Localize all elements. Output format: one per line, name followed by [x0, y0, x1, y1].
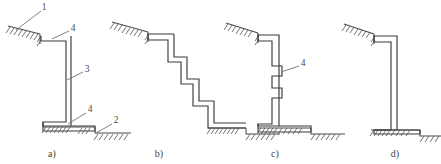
hatch-tick	[265, 128, 269, 134]
hatch-tick	[391, 130, 395, 136]
hatch-tick	[109, 134, 113, 140]
callout-4-notch: 4	[281, 58, 306, 72]
hatch-tick	[114, 134, 118, 140]
hatch-tick	[114, 24, 118, 30]
hatch-tick	[18, 30, 22, 36]
hatch-tick	[354, 29, 358, 35]
callout-label: 3	[85, 64, 90, 74]
panel-a-upper-ground	[6, 26, 41, 46]
hatch-tick	[378, 130, 382, 136]
panel-caption-d: d)	[391, 148, 399, 160]
panel-b-upper-ground	[110, 22, 149, 44]
hatch-tick	[283, 128, 287, 134]
wall-outline-front	[258, 41, 311, 132]
hatch-tick	[366, 32, 370, 38]
callout-label: 4	[88, 104, 93, 114]
hatch-tick	[240, 29, 244, 35]
leader-line	[16, 11, 41, 30]
hatch-tick	[94, 134, 98, 140]
hatch-tick	[58, 127, 62, 133]
ground-line	[95, 127, 131, 133]
hatch-tick	[30, 33, 34, 39]
hatch-tick	[396, 130, 400, 136]
panel-b: b)	[110, 22, 280, 160]
hatch-tick	[50, 127, 54, 133]
hatch-tick	[278, 128, 282, 134]
hatch-tick	[118, 25, 122, 31]
panel-d: d)	[342, 24, 441, 160]
hatch-tick	[62, 127, 66, 133]
callout-label: 4	[71, 23, 76, 33]
callout-label: 1	[42, 2, 47, 12]
hatch-tick	[99, 134, 103, 140]
wall-outline-back	[174, 34, 246, 123]
hatch-tick	[346, 26, 350, 32]
hatch-tick	[316, 134, 320, 140]
hatch-tick	[134, 30, 138, 36]
hatch-tick	[401, 130, 405, 136]
hatch-tick	[211, 128, 215, 134]
hatch-tick	[119, 134, 123, 140]
hatch-tick	[256, 134, 260, 140]
hatch-tick	[104, 134, 108, 140]
hatch-tick	[321, 134, 325, 140]
hatch-tick	[420, 136, 424, 142]
wall-top-edge	[148, 34, 174, 40]
panel-caption-c: c)	[271, 148, 279, 160]
hatch-tick	[271, 134, 275, 140]
hatch-tick	[66, 127, 70, 133]
hatch-tick	[350, 27, 354, 33]
hatch-tick	[425, 136, 429, 142]
hatch-tick	[227, 128, 231, 134]
panel-a-lower-ground	[42, 127, 131, 140]
hatch-tick	[130, 29, 134, 35]
hatch-tick	[311, 134, 315, 140]
hatch-tick	[122, 27, 126, 33]
hatch-tick	[22, 31, 26, 37]
hatch-tick	[34, 34, 38, 40]
hatch-tick	[251, 134, 255, 140]
retaining-wall-figure: 1 4 3 4 2 a)	[0, 0, 441, 164]
panel-caption-a: a)	[48, 148, 56, 160]
callout-label: 4	[301, 58, 306, 68]
hatch-tick	[326, 134, 330, 140]
ground-line	[420, 130, 441, 136]
hatch-tick	[331, 134, 335, 140]
hatch-tick	[342, 25, 346, 31]
hatch-tick	[54, 127, 58, 133]
callout-3: 3	[67, 64, 90, 80]
hatch-tick	[219, 128, 223, 134]
hatch-tick	[224, 24, 228, 30]
hatch-tick	[386, 130, 390, 136]
panel-d-upper-ground	[342, 24, 375, 46]
hatch-tick	[374, 130, 378, 136]
hatch-tick	[266, 134, 270, 140]
hatch-tick	[126, 28, 130, 34]
wall-footing-edge	[43, 122, 71, 126]
hatch-tick	[110, 23, 114, 29]
hatch-tick	[10, 28, 14, 34]
wall-outline-front	[148, 40, 246, 128]
figure-canvas: 1 4 3 4 2 a)	[0, 0, 441, 164]
hatch-tick	[236, 28, 240, 34]
leader-line	[96, 124, 112, 133]
hatch-tick	[370, 130, 374, 136]
hatch-tick	[232, 26, 236, 32]
callout-1: 1	[16, 2, 47, 30]
leader-line	[52, 31, 69, 39]
hatch-tick	[406, 130, 410, 136]
leader-line	[67, 72, 83, 80]
panel-caption-b: b)	[155, 148, 163, 160]
hatch-tick	[261, 134, 265, 140]
wall-outline-back	[258, 35, 311, 132]
hatch-tick	[298, 128, 302, 134]
callout-label: 2	[114, 115, 119, 125]
hatch-tick	[215, 128, 219, 134]
panel-d-lower-ground	[370, 130, 441, 142]
hatch-tick	[248, 31, 252, 37]
wall-outline	[41, 36, 95, 131]
hatch-tick	[235, 128, 239, 134]
callout-4-top: 4	[52, 23, 76, 39]
ground-line	[112, 22, 148, 32]
panel-c: 4 c)	[224, 23, 345, 160]
